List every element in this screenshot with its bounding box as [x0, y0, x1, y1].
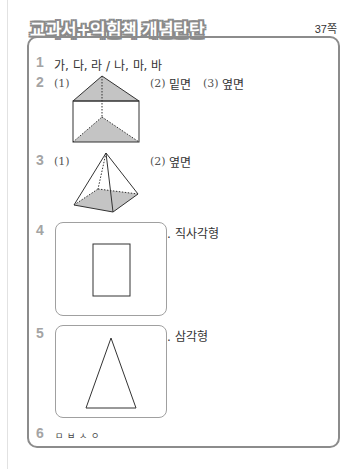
triangular-prism-figure — [73, 76, 139, 142]
figures-layer — [0, 0, 360, 469]
square-pyramid-figure — [74, 153, 138, 212]
triangle-figure — [86, 338, 136, 408]
rectangle-figure — [93, 244, 130, 296]
